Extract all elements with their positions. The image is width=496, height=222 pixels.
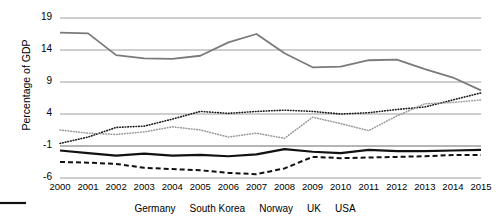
x-tick-label: 2008 bbox=[270, 181, 300, 192]
legend-label: South Korea bbox=[190, 203, 246, 214]
x-tick-label: 2014 bbox=[438, 181, 468, 192]
x-tick-label: 2009 bbox=[298, 181, 328, 192]
legend-item-uk[interactable]: UK bbox=[307, 203, 321, 214]
legend-label: USA bbox=[335, 203, 356, 214]
x-tick-label: 2002 bbox=[101, 181, 131, 192]
x-tick-label: 2003 bbox=[129, 181, 159, 192]
series-line-usa bbox=[60, 155, 481, 174]
chart-legend: GermanySouth KoreaNorwayUKUSA bbox=[0, 198, 490, 218]
legend-item-germany[interactable]: Germany bbox=[134, 203, 175, 214]
x-tick-label: 2000 bbox=[45, 181, 75, 192]
x-tick-label: 2011 bbox=[354, 181, 384, 192]
x-tick-label: 2013 bbox=[410, 181, 440, 192]
series-lines bbox=[60, 33, 481, 174]
y-tick-label: 9 bbox=[26, 75, 52, 86]
x-tick-label: 2012 bbox=[382, 181, 412, 192]
y-tick-label: -1 bbox=[26, 139, 52, 150]
series-line-uk bbox=[60, 149, 481, 156]
legend-label: Germany bbox=[134, 203, 175, 214]
series-line-south-korea bbox=[60, 100, 481, 138]
legend-label: Norway bbox=[259, 203, 293, 214]
x-tick-label: 2001 bbox=[73, 181, 103, 192]
gridlines bbox=[60, 18, 481, 178]
x-tick-label: 2015 bbox=[466, 181, 496, 192]
y-tick-label: 14 bbox=[26, 43, 52, 54]
legend-item-norway[interactable]: Norway bbox=[259, 203, 293, 214]
y-tick-label: 4 bbox=[26, 107, 52, 118]
legend-item-south-korea[interactable]: South Korea bbox=[190, 203, 246, 214]
x-tick-label: 2010 bbox=[326, 181, 356, 192]
x-tick-label: 2004 bbox=[157, 181, 187, 192]
x-tick-label: 2005 bbox=[185, 181, 215, 192]
legend-label: UK bbox=[307, 203, 321, 214]
legend-swatch-icon bbox=[0, 198, 26, 207]
x-tick-label: 2006 bbox=[213, 181, 243, 192]
legend-item-usa[interactable]: USA bbox=[335, 203, 356, 214]
x-tick-label: 2007 bbox=[241, 181, 271, 192]
y-tick-label: 19 bbox=[26, 11, 52, 22]
